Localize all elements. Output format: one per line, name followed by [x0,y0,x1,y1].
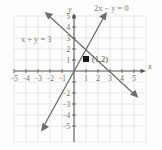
x-tick-label--1: −1 [58,75,66,83]
y-tick-label--4: −4 [62,112,70,120]
x-tick-label-2: 2 [96,75,100,83]
equation-label-line1: 2x − y = 0 [94,4,129,13]
intersection-point-label: (1,2) [92,55,108,64]
x-tick-label--5: −5 [10,75,18,83]
x-tick-label--3: −3 [34,75,42,83]
y-tick-label--5: −5 [62,123,70,131]
y-tick-label-1: 1 [66,57,70,65]
x-tick-label-4: 4 [120,75,124,83]
y-tick-label-2: 2 [66,46,70,54]
x-tick-label-3: 3 [108,75,112,83]
intersection-point-marker [83,56,89,62]
y-tick-label-3: 3 [66,35,70,43]
x-tick-label--4: −4 [22,75,30,83]
x-tick-label-5: 5 [132,75,136,83]
y-tick-label-5: 5 [66,13,70,21]
y-tick-label--2: −2 [62,90,70,98]
graph-svg: −5 −4 −3 −2 −1 1 2 3 4 5 5 4 3 2 1 −2 −3… [0,0,162,150]
y-tick-label--3: −3 [62,101,70,109]
x-axis-label: x [147,62,152,71]
y-tick-label-4: 4 [66,24,70,32]
coordinate-graph-figure: −5 −4 −3 −2 −1 1 2 3 4 5 5 4 3 2 1 −2 −3… [0,0,162,150]
y-axis-label: y [67,5,72,14]
x-tick-label-1: 1 [84,75,88,83]
x-tick-label--2: −2 [46,75,54,83]
equation-label-line2: x + y = 3 [21,35,51,44]
